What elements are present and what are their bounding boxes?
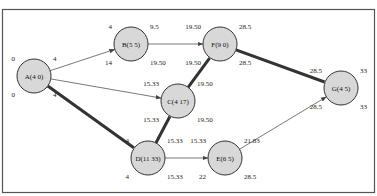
- node-d-es-label: 4: [126, 137, 130, 145]
- node-c-ef-label: 19.50: [197, 80, 213, 88]
- node-a-ef-label: 4: [53, 55, 57, 63]
- network-diagram: A(4 0)B(5 5)C(4 17)D(11 33)E(6 5)F(9 0)G…: [0, 0, 377, 196]
- node-a-lf-label: 4: [53, 91, 57, 99]
- node-label: G(4 5): [332, 85, 351, 93]
- node-a-ls-label: 0: [12, 91, 16, 99]
- node-d: D(11 33): [131, 141, 165, 175]
- node-e-es-label: 15.33: [190, 137, 206, 145]
- node-f-ls-label: 19.50: [185, 59, 201, 67]
- node-c-es-label: 15.33: [143, 80, 159, 88]
- node-g-ls-label: 28.5: [310, 103, 323, 111]
- node-e-ef-label: 21.83: [244, 137, 260, 145]
- node-g-ef-label: 33: [360, 67, 368, 75]
- node-e: E(6 5): [208, 141, 242, 175]
- node-c-ls-label: 15.33: [143, 116, 159, 124]
- node-label: C(4 17): [167, 98, 189, 106]
- edge-a-d: [48, 86, 134, 148]
- node-b-es-label: 4: [109, 23, 113, 31]
- node-label: D(11 33): [135, 155, 161, 163]
- node-a: A(4 0): [17, 59, 51, 93]
- node-f-ef-label: 28.5: [239, 23, 252, 31]
- node-label: F(9 0): [211, 41, 229, 49]
- node-g: G(4 5): [324, 71, 358, 105]
- node-label: A(4 0): [25, 73, 44, 81]
- node-f-es-label: 19.50: [185, 23, 201, 31]
- node-d-ef-label: 15.33: [167, 137, 183, 145]
- node-f-lf-label: 28.5: [239, 59, 252, 67]
- node-b-ls-label: 14: [105, 59, 113, 67]
- node-f: F(9 0): [203, 27, 237, 61]
- node-g-es-label: 28.5: [310, 67, 323, 75]
- node-label: E(6 5): [216, 155, 234, 163]
- node-e-ls-label: 22: [199, 173, 207, 181]
- node-c: C(4 17): [161, 84, 195, 118]
- node-b-ef-label: 9.5: [150, 23, 159, 31]
- node-label: B(5 5): [122, 41, 141, 49]
- node-d-lf-label: 15.33: [167, 173, 183, 181]
- node-b: B(5 5): [114, 27, 148, 61]
- node-a-es-label: 0: [12, 55, 16, 63]
- node-d-ls-label: 4: [126, 173, 130, 181]
- node-g-lf-label: 33: [360, 103, 368, 111]
- node-e-lf-label: 28.5: [244, 173, 257, 181]
- node-b-lf-label: 19.50: [150, 59, 166, 67]
- node-c-lf-label: 19.50: [197, 116, 213, 124]
